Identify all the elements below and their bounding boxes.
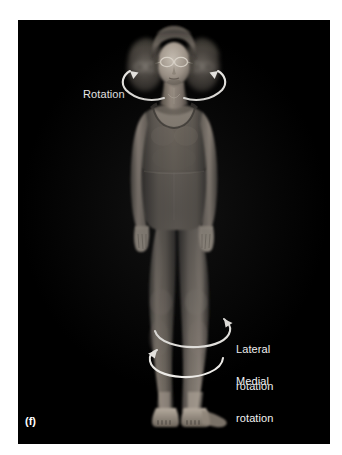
label-rotation: Rotation — [83, 88, 125, 100]
hips — [141, 170, 210, 230]
feet — [152, 408, 227, 427]
torso — [139, 104, 208, 172]
subject-photograph — [18, 20, 330, 444]
photo-plate: .arw { fill: none; stroke: #f4f2ee; stro… — [18, 20, 330, 444]
panel-letter: (f) — [25, 415, 36, 427]
label-medial-line2: rotation — [236, 412, 274, 424]
figure-page: .arw { fill: none; stroke: #f4f2ee; stro… — [0, 0, 342, 455]
label-medial-line1: Medial — [236, 375, 274, 387]
label-medial-rotation: Medial rotation — [236, 350, 274, 444]
neck — [160, 82, 188, 109]
